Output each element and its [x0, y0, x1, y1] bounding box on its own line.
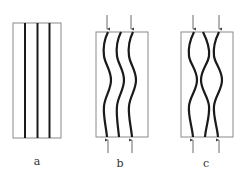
panel-b-fiber-3 [129, 32, 136, 137]
panel-c-fiber-3 [214, 32, 222, 137]
panel-c: c [181, 15, 233, 170]
panel-c-fiber-2 [201, 32, 209, 137]
panel-c-label: c [203, 157, 209, 170]
panel-a-label: a [34, 155, 41, 168]
fiber-buckling-figure: a b c [0, 0, 251, 178]
panel-a: a [13, 23, 61, 168]
panel-b-fiber-1 [104, 32, 111, 137]
panel-b-fiber-2 [117, 32, 124, 137]
panel-b-label: b [116, 157, 123, 170]
panel-b: b [96, 15, 148, 170]
panel-c-fiber-1 [189, 32, 197, 137]
